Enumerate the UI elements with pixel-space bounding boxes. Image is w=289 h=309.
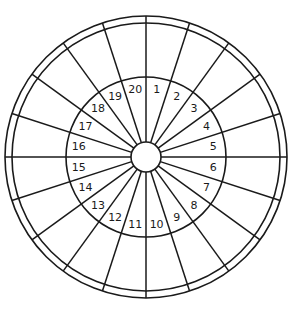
sector-label: 6 — [210, 161, 217, 174]
dartboard-diagram: 1234567891011121314151617181920 — [0, 0, 289, 309]
sector-label: 16 — [72, 140, 86, 153]
sector-label: 8 — [191, 199, 198, 212]
sector-label: 19 — [108, 90, 122, 103]
sector-label: 20 — [128, 83, 142, 96]
sector-label: 9 — [173, 211, 180, 224]
sector-label: 18 — [91, 102, 105, 115]
sector-label: 14 — [78, 181, 92, 194]
sector-label: 11 — [128, 218, 142, 231]
sector-label: 15 — [72, 161, 86, 174]
sector-label: 12 — [108, 211, 122, 224]
sector-label: 1 — [153, 83, 160, 96]
sector-label: 13 — [91, 199, 105, 212]
center-hub — [131, 142, 161, 172]
sector-label: 17 — [78, 120, 92, 133]
sector-label: 10 — [150, 218, 164, 231]
sector-label: 3 — [191, 102, 198, 115]
sector-label: 2 — [173, 90, 180, 103]
sector-label: 4 — [203, 120, 210, 133]
sector-label: 5 — [210, 140, 217, 153]
sector-label: 7 — [203, 181, 210, 194]
